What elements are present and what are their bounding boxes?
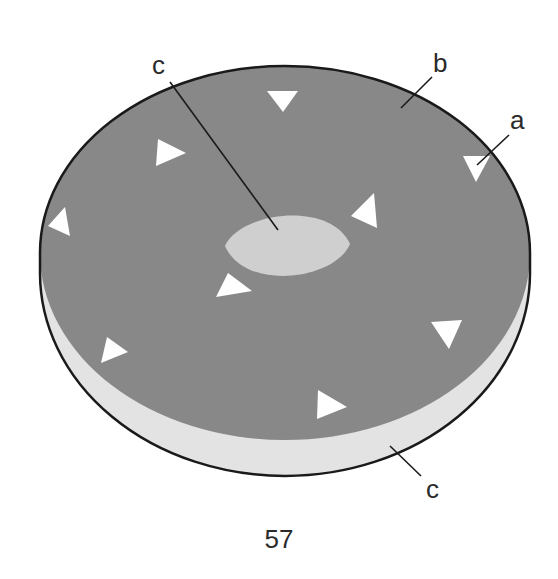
label-c-bottom: c — [426, 474, 439, 504]
page-number: 57 — [265, 524, 294, 554]
label-a: a — [510, 105, 525, 135]
label-c-top: c — [152, 50, 165, 80]
disc-diagram: c b a c 57 — [0, 0, 558, 579]
label-b: b — [433, 48, 447, 78]
